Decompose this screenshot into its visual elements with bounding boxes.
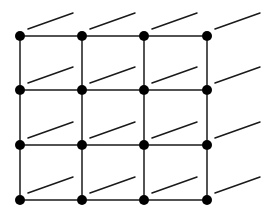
lattice-node (15, 31, 25, 41)
lattice-node (139, 140, 149, 150)
diagonal-edge (90, 67, 135, 83)
lattice-node (15, 195, 25, 205)
lattice-node (77, 195, 87, 205)
vertical-edges (20, 41, 207, 195)
diagonal-edge (90, 177, 135, 193)
diagonal-edge (215, 122, 260, 138)
diagonal-edge (152, 177, 197, 193)
lattice-node (202, 140, 212, 150)
lattice-node (139, 195, 149, 205)
diagonal-edge (90, 13, 135, 29)
diagonal-edge (28, 13, 73, 29)
diagonal-edge (28, 122, 73, 138)
lattice-node (202, 31, 212, 41)
diagonal-edge (215, 177, 260, 193)
lattice-node (77, 140, 87, 150)
diagonal-edge (152, 67, 197, 83)
lattice-node (77, 85, 87, 95)
lattice-node (139, 31, 149, 41)
diagonal-edge (215, 13, 260, 29)
lattice-node (139, 85, 149, 95)
lattice-node (15, 140, 25, 150)
lattice-node (202, 195, 212, 205)
lattice-node (77, 31, 87, 41)
diagonal-edge (28, 177, 73, 193)
lattice-node (202, 85, 212, 95)
lattice-diagram (0, 0, 278, 217)
diagonal-edge (215, 67, 260, 83)
diagonal-edge (90, 122, 135, 138)
nodes (15, 31, 212, 205)
diagonal-edge (152, 122, 197, 138)
horizontal-edges (25, 36, 202, 200)
diagonal-edge (152, 13, 197, 29)
lattice-node (15, 85, 25, 95)
diagonal-edge (28, 67, 73, 83)
